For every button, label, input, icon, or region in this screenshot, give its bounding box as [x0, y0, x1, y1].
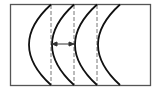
wavefront-arc-4	[98, 5, 120, 86]
wavefront-arc-1	[29, 5, 51, 86]
frame-rectangle	[11, 5, 151, 86]
dashed-guide-lines	[51, 5, 97, 85]
wavefront-diagram	[0, 0, 158, 89]
wavelength-arrow	[52, 42, 74, 46]
wavefront-arc-3	[75, 5, 97, 86]
arrow-head-right-icon	[69, 42, 74, 46]
